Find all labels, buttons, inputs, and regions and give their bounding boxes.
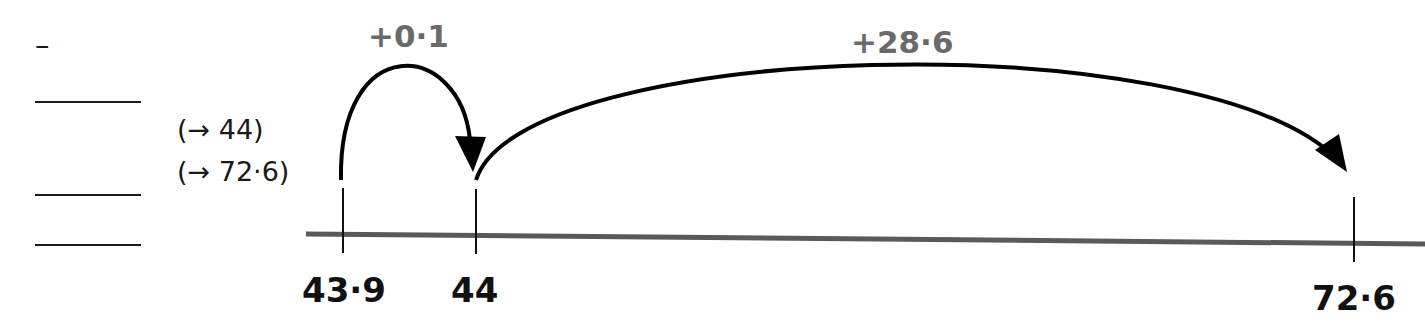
number-line-axis [306, 234, 1425, 244]
jump-arc [341, 66, 470, 180]
jump-arc [476, 64, 1338, 180]
tick-label: 72·6 [1312, 278, 1396, 318]
tick-label: 44 [451, 270, 498, 310]
jump-label: +28·6 [851, 24, 953, 60]
number-line [0, 0, 1425, 332]
tick-label: 43·9 [302, 270, 386, 310]
arrowhead-icon [1315, 134, 1347, 172]
jump-label: +0·1 [368, 18, 449, 54]
